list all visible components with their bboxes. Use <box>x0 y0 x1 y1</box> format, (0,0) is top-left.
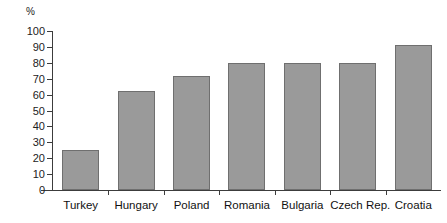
y-axis-tick-label: 70 <box>1 74 45 85</box>
x-axis-tick <box>164 190 165 195</box>
bar-chart: % 1009080706050403020100 TurkeyHungaryPo… <box>0 0 447 223</box>
x-axis-tick <box>386 190 387 195</box>
y-axis-tick-label-wrap: 20 <box>0 158 45 159</box>
bar[interactable] <box>339 63 376 190</box>
bar-slot <box>164 31 219 190</box>
bar-slot <box>386 31 441 190</box>
y-axis-tick-label: 80 <box>1 58 45 69</box>
x-axis-tick <box>219 190 220 195</box>
y-axis-tick-label: 30 <box>1 137 45 148</box>
y-axis-tick-label: 0 <box>1 185 45 196</box>
y-axis-tick-label-wrap: 70 <box>0 79 45 80</box>
y-axis-tick-label-wrap: 0 <box>0 190 45 191</box>
y-axis-tick-label: 90 <box>1 42 45 53</box>
x-axis-tick <box>108 190 109 195</box>
y-axis-tick-label: 50 <box>1 106 45 117</box>
y-axis-tick-label-wrap: 100 <box>0 31 45 32</box>
y-axis-tick-label: 100 <box>1 26 45 37</box>
y-axis-tick-label-wrap: 60 <box>0 95 45 96</box>
x-axis-category-label: Croatia <box>386 198 441 212</box>
bar-slot <box>275 31 330 190</box>
x-axis-category-label: Poland <box>164 198 219 212</box>
x-axis-category-label: Hungary <box>108 198 163 212</box>
bar[interactable] <box>395 45 432 190</box>
bar-slot <box>53 31 108 190</box>
y-axis-tick-label: 10 <box>1 169 45 180</box>
x-axis-category-label: Bulgaria <box>275 198 330 212</box>
bar-slot <box>330 31 385 190</box>
y-axis-tick-label-wrap: 30 <box>0 142 45 143</box>
bar-slot <box>108 31 163 190</box>
bar[interactable] <box>62 150 99 190</box>
bar[interactable] <box>118 91 155 190</box>
y-axis-tick-label: 40 <box>1 121 45 132</box>
y-axis-tick-label-wrap: 10 <box>0 174 45 175</box>
y-axis-tick-label-wrap: 40 <box>0 126 45 127</box>
y-axis-tick-label-wrap: 50 <box>0 111 45 112</box>
y-axis-tick <box>47 190 53 191</box>
bars-layer <box>53 31 441 190</box>
bar[interactable] <box>173 76 210 190</box>
y-axis-tick-label: 20 <box>1 153 45 164</box>
x-axis-tick <box>275 190 276 195</box>
y-axis-tick-label-wrap: 90 <box>0 47 45 48</box>
y-axis-tick-label: 60 <box>1 90 45 101</box>
bar-slot <box>219 31 274 190</box>
x-axis-category-label: Romania <box>219 198 274 212</box>
x-axis-category-label: Turkey <box>53 198 108 212</box>
bar[interactable] <box>228 63 265 190</box>
bar[interactable] <box>284 63 321 190</box>
x-axis-labels: TurkeyHungaryPolandRomaniaBulgariaCzech … <box>53 198 441 216</box>
x-axis-tick <box>330 190 331 195</box>
x-axis-category-label: Czech Rep. <box>330 198 385 212</box>
y-axis-tick-label-wrap: 80 <box>0 63 45 64</box>
y-axis-unit-label: % <box>26 7 35 17</box>
x-axis-line <box>41 190 441 191</box>
